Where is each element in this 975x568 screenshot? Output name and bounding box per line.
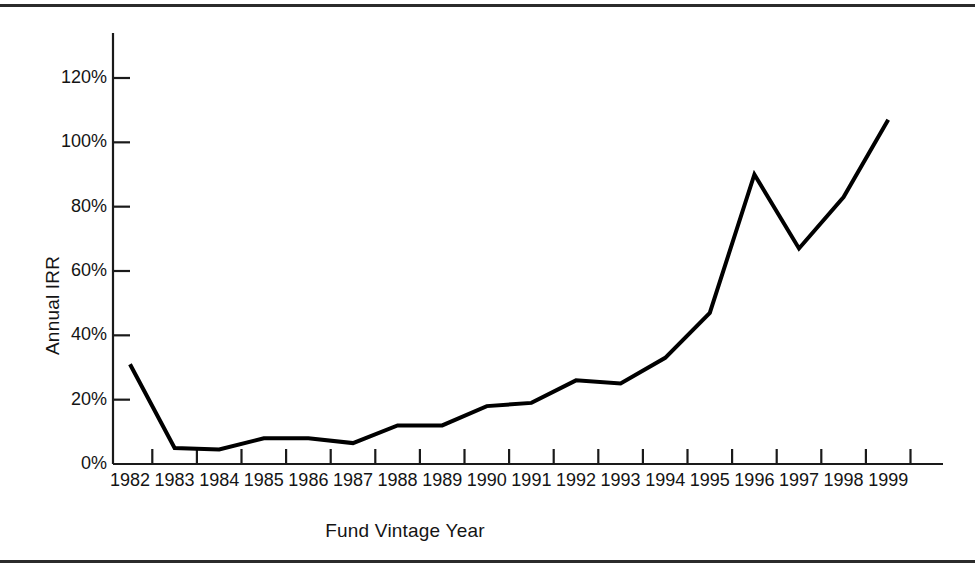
x-axis-tick-label: 1987 — [331, 470, 375, 491]
y-axis-tick-label: 100% — [61, 131, 107, 152]
x-axis-tick-label: 1982 — [108, 470, 152, 491]
axes-group — [113, 33, 943, 464]
x-axis-tick-label: 1993 — [599, 470, 643, 491]
x-axis-tick-label: 1985 — [242, 470, 286, 491]
x-axis-tick-label: 1988 — [376, 470, 420, 491]
chart-figure: Annual IRR Fund Vintage Year 0%20%40%60%… — [0, 0, 975, 568]
x-axis-tick-label: 1986 — [286, 470, 330, 491]
x-axis-title-label: Fund Vintage Year — [0, 520, 810, 542]
irr-data-line — [130, 120, 888, 450]
x-axis-tick-label: 1983 — [153, 470, 197, 491]
x-axis-tick-label: 1998 — [822, 470, 866, 491]
y-axis-tick-label: 80% — [71, 196, 107, 217]
x-axis-tick-label: 1994 — [643, 470, 687, 491]
y-axis-tick-label: 120% — [61, 67, 107, 88]
x-axis-tick-label: 1997 — [777, 470, 821, 491]
x-axis-tick-label: 1984 — [197, 470, 241, 491]
x-axis-tick-label: 1995 — [688, 470, 732, 491]
x-axis-tick-label: 1992 — [554, 470, 598, 491]
y-axis-tick-label: 40% — [71, 324, 107, 345]
y-axis-tick-label: 20% — [71, 389, 107, 410]
x-axis-tick-label: 1989 — [420, 470, 464, 491]
y-axis-tick-label: 0% — [81, 453, 107, 474]
y-axis-title-label: Annual IRR — [42, 256, 64, 355]
y-axis-tick-label: 60% — [71, 260, 107, 281]
x-axis-tick-label: 1996 — [732, 470, 776, 491]
x-axis-tick-label: 1991 — [509, 470, 553, 491]
x-axis-tick-label: 1990 — [465, 470, 509, 491]
x-axis-tick-label: 1999 — [866, 470, 910, 491]
